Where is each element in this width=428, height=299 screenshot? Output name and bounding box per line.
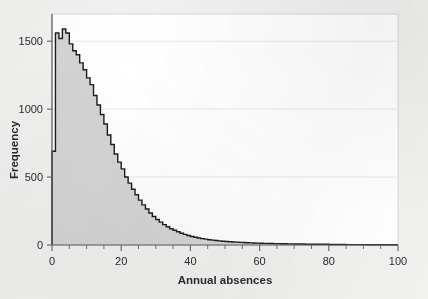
y-axis: 050010001500 [19, 14, 52, 251]
y-tick-label-0: 0 [37, 239, 43, 251]
y-tick-label-1500: 1500 [19, 35, 43, 47]
x-tick-label-40: 40 [184, 255, 196, 267]
x-axis-tick-labels: 020406080100 [49, 255, 407, 267]
histogram-figure: 020406080100 050010001500 Annual absence… [0, 0, 428, 299]
chart-canvas: 020406080100 050010001500 Annual absence… [0, 0, 428, 299]
x-axis: 020406080100 [49, 245, 407, 267]
x-tick-label-100: 100 [389, 255, 407, 267]
y-tick-label-1000: 1000 [19, 103, 43, 115]
x-axis-minor-ticks [69, 245, 380, 249]
x-tick-label-80: 80 [323, 255, 335, 267]
y-tick-label-500: 500 [25, 171, 43, 183]
x-tick-label-0: 0 [49, 255, 55, 267]
y-axis-tick-labels: 050010001500 [19, 35, 43, 251]
x-tick-label-20: 20 [115, 255, 127, 267]
x-tick-label-60: 60 [253, 255, 265, 267]
y-axis-major-ticks [47, 41, 52, 245]
y-axis-title: Frequency [8, 120, 20, 179]
x-axis-title: Annual absences [178, 274, 273, 286]
